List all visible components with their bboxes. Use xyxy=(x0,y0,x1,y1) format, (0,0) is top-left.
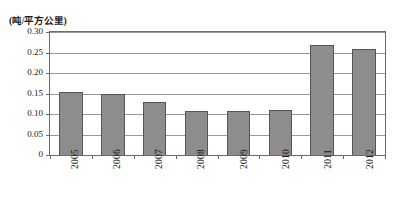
bar xyxy=(310,45,333,155)
y-axis-tick-mark xyxy=(46,114,50,115)
x-axis-label-slot: 2005 xyxy=(49,158,91,206)
bar-slot xyxy=(134,32,176,155)
bar-chart-figure: (吨/平方公里) 00.050.100.150.200.250.30 20052… xyxy=(0,0,403,215)
y-axis-tick-mark xyxy=(46,135,50,136)
bar-slot xyxy=(301,32,343,155)
y-axis-tick-mark xyxy=(46,73,50,74)
x-axis-tick-label: 2006 xyxy=(112,149,122,169)
bar-slot xyxy=(218,32,260,155)
x-axis-label-slot: 2007 xyxy=(133,158,175,206)
x-axis-tick-label: 2009 xyxy=(239,149,249,169)
bar-slot xyxy=(176,32,218,155)
x-axis-label-slot: 2008 xyxy=(175,158,217,206)
bar xyxy=(59,92,82,155)
bar-slot xyxy=(92,32,134,155)
x-axis-tick-label: 2007 xyxy=(154,149,164,169)
bar-slot xyxy=(259,32,301,155)
x-axis-tick-label: 2005 xyxy=(70,149,80,169)
y-axis-tick-label: 0 xyxy=(0,149,43,159)
bar-slot xyxy=(343,32,385,155)
bar-slot xyxy=(50,32,92,155)
x-axis-tick-label: 2010 xyxy=(281,149,291,169)
y-axis-tick-label: 0.25 xyxy=(0,47,43,57)
y-axis-tick-label: 0.20 xyxy=(0,67,43,77)
x-axis-label-slot: 2010 xyxy=(260,158,302,206)
y-axis-tick-label: 0.15 xyxy=(0,88,43,98)
bar xyxy=(352,49,375,155)
x-axis-tick-label: 2012 xyxy=(365,149,375,169)
y-axis-tick-label: 0.30 xyxy=(0,26,43,36)
y-axis-tick-mark xyxy=(46,155,50,156)
x-axis-label-slot: 2012 xyxy=(344,158,386,206)
x-axis-label-slot: 2011 xyxy=(302,158,344,206)
bar xyxy=(101,94,124,156)
y-axis-tick-mark xyxy=(46,32,50,33)
y-axis-tick-label: 0.05 xyxy=(0,129,43,139)
y-axis-tick-mark xyxy=(46,53,50,54)
y-axis-tick-mark xyxy=(46,94,50,95)
x-axis-tick-label: 2011 xyxy=(323,149,333,168)
bar xyxy=(143,102,166,155)
x-axis-label-slot: 2006 xyxy=(91,158,133,206)
bar-series xyxy=(50,32,385,155)
x-axis-labels: 20052006200720082009201020112012 xyxy=(49,158,386,206)
x-axis-label-slot: 2009 xyxy=(218,158,260,206)
y-axis-tick-label: 0.10 xyxy=(0,108,43,118)
y-axis-unit-caption: (吨/平方公里) xyxy=(9,13,66,27)
x-axis-tick-label: 2008 xyxy=(196,149,206,169)
plot-area xyxy=(49,31,386,156)
